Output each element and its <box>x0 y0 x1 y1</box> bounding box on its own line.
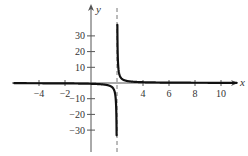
y-tick-label: 10 <box>75 62 85 73</box>
x-axis-label: x <box>239 76 245 88</box>
y-tick: 10 <box>75 62 95 73</box>
y-tick: 30 <box>75 30 95 41</box>
x-tick-label: 8 <box>193 88 198 99</box>
y-tick-label: 30 <box>75 30 85 41</box>
x-tick-label: 10 <box>216 88 226 99</box>
y-tick-label: −10 <box>69 93 85 104</box>
y-axis: y 302010−10−20−30 <box>69 3 101 152</box>
x-axis: x −4−246810 <box>12 76 245 99</box>
y-tick-label: −20 <box>69 109 85 120</box>
right-branch <box>117 25 236 83</box>
y-tick-label: 20 <box>75 46 85 57</box>
chart: x −4−246810 y 302010−10−20−30 <box>0 0 248 156</box>
x-tick-label: −4 <box>34 88 45 99</box>
curve-series <box>14 25 236 135</box>
y-tick: 20 <box>75 46 95 57</box>
y-tick-label: −30 <box>69 125 85 136</box>
x-tick-label: 4 <box>141 88 146 99</box>
y-axis-label: y <box>95 3 101 15</box>
x-tick-label: 6 <box>167 88 172 99</box>
